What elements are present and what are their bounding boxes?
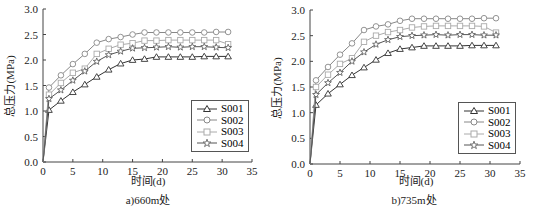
chart-legend: S001 S002 S003 S004 xyxy=(191,100,249,152)
legend-item-s004: S004 xyxy=(196,138,244,150)
y-tick-label: 2.5 xyxy=(291,30,305,42)
x-axis-label: 时间(d) xyxy=(14,172,282,188)
triangle-marker-icon xyxy=(463,106,485,116)
circle-marker-icon xyxy=(463,117,485,127)
legend-item-s001: S001 xyxy=(196,103,244,115)
y-axis-label: 总压力(MPa) xyxy=(1,55,17,116)
square-marker-icon xyxy=(196,127,218,137)
chart-caption: b)735m处 xyxy=(280,191,536,207)
legend-item-s001: S001 xyxy=(463,105,511,117)
y-tick-label: 0.0 xyxy=(291,158,305,170)
star-marker-icon xyxy=(463,140,485,150)
y-tick-label: 2.5 xyxy=(24,29,38,41)
square-marker-icon xyxy=(463,129,485,139)
y-tick-label: 3.0 xyxy=(291,4,305,16)
y-tick-label: 1.5 xyxy=(24,80,38,92)
y-axis-label: 总压力(MPa) xyxy=(268,57,284,118)
circle-marker-icon xyxy=(196,115,218,125)
legend-item-s003: S003 xyxy=(196,126,244,138)
y-tick-label: 1.5 xyxy=(291,81,305,93)
legend-item-s004: S004 xyxy=(463,140,511,152)
y-tick-label: 0.0 xyxy=(24,156,38,168)
y-tick-label: 0.5 xyxy=(24,131,38,143)
y-tick-label: 2.0 xyxy=(291,55,305,67)
x-axis-label: 时间(d) xyxy=(282,172,536,188)
triangle-marker-icon xyxy=(196,104,218,114)
star-marker-icon xyxy=(196,138,218,148)
y-tick-label: 2.0 xyxy=(24,54,38,66)
y-tick-label: 1.0 xyxy=(291,107,305,119)
y-tick-label: 0.5 xyxy=(291,132,305,144)
legend-item-s003: S003 xyxy=(463,128,511,140)
y-tick-label: 1.0 xyxy=(24,105,38,117)
chart-caption: a)660m处 xyxy=(14,191,282,207)
y-tick-label: 3.0 xyxy=(24,3,38,15)
chart-legend: S001 S002 S003 S004 xyxy=(458,102,516,154)
chart-panel-735m: 0.00.51.01.52.02.53.005101520253035 总压力(… xyxy=(268,0,536,216)
chart-panel-660m: 0.00.51.01.52.02.53.005101520253035 总压力(… xyxy=(0,0,268,216)
